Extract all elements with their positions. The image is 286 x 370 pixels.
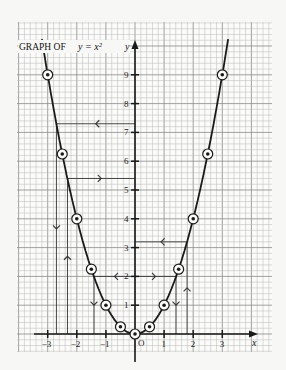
y-axis-label: y [124,41,130,52]
x-tick-label: −1 [100,339,110,349]
x-tick-label: −2 [71,339,81,349]
y-tick-label: 9 [124,70,129,80]
y-tick-label: 5 [124,185,129,195]
y-tick-label: 2 [124,271,129,281]
y-tick-label: 7 [124,127,129,137]
data-point-marker [217,70,227,80]
data-point-marker [174,264,184,274]
data-point-marker [43,70,53,80]
data-point-marker [57,149,67,159]
x-axis-label: x [251,337,257,348]
data-point-marker [203,149,213,159]
data-point-marker [101,300,111,310]
x-tick-label: 2 [191,339,196,349]
x-tick-label: 3 [220,339,225,349]
x-tick-label: 1 [162,339,167,349]
chart-title-equation: y = x² [77,41,103,52]
data-point-marker [86,264,96,274]
y-tick-label: 1 [124,300,129,310]
data-point-marker [72,214,82,224]
data-point-marker [159,300,169,310]
y-tick-label: 6 [124,156,129,166]
graph-y-equals-x-squared: −3−2−1123123456789 GRAPH OF y = x² y x O [0,0,286,370]
data-point-marker [115,322,125,332]
y-tick-label: 8 [124,99,129,109]
chart-title-prefix: GRAPH OF [19,42,66,52]
data-point-marker [188,214,198,224]
graph-paper-grid [17,22,272,352]
x-tick-label: −3 [42,339,52,349]
origin-label: O [138,338,145,348]
y-tick-label: 3 [124,243,129,253]
y-tick-label: 4 [124,214,129,224]
data-point-marker [145,322,155,332]
